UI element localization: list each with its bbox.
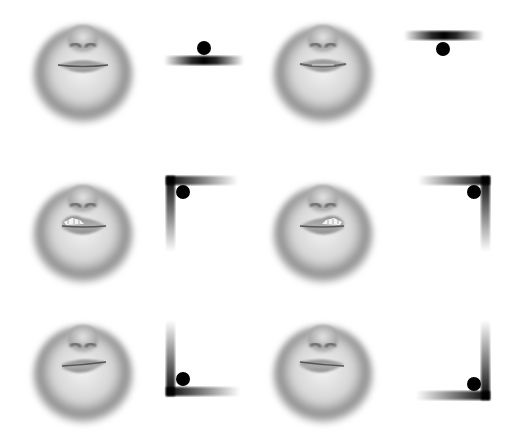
control-horizontal-bar bbox=[162, 20, 252, 110]
mouth-face-frown-left bbox=[28, 318, 138, 428]
control-handle[interactable] bbox=[467, 377, 481, 391]
control-bar-vertical bbox=[166, 176, 175, 252]
mouth-face-sneer-left bbox=[28, 178, 138, 288]
control-corner-bracket bbox=[412, 172, 502, 262]
mouth-face-frown-right bbox=[268, 318, 378, 428]
control-bar-vertical bbox=[166, 320, 175, 396]
control-handle[interactable] bbox=[436, 42, 450, 56]
control-handle[interactable] bbox=[467, 185, 481, 199]
control-bar-horizontal bbox=[166, 387, 240, 396]
control-corner-bracket bbox=[162, 172, 252, 262]
control-handle[interactable] bbox=[197, 41, 211, 55]
control-bar-vertical bbox=[481, 176, 490, 252]
mouth-face-neutral-parted bbox=[268, 18, 378, 128]
control-corner-bracket bbox=[412, 316, 502, 406]
control-bar bbox=[404, 31, 484, 40]
control-handle[interactable] bbox=[176, 372, 190, 386]
mouth-face-neutral-closed bbox=[28, 18, 138, 128]
control-bar-horizontal bbox=[166, 176, 238, 185]
control-bar-horizontal bbox=[418, 176, 490, 185]
control-corner-bracket bbox=[162, 316, 252, 406]
control-bar-vertical bbox=[481, 320, 490, 400]
control-bar bbox=[164, 56, 244, 65]
control-handle[interactable] bbox=[176, 185, 190, 199]
mouth-face-sneer-right bbox=[268, 178, 378, 288]
control-horizontal-bar bbox=[402, 12, 492, 102]
control-bar-horizontal bbox=[416, 391, 490, 400]
